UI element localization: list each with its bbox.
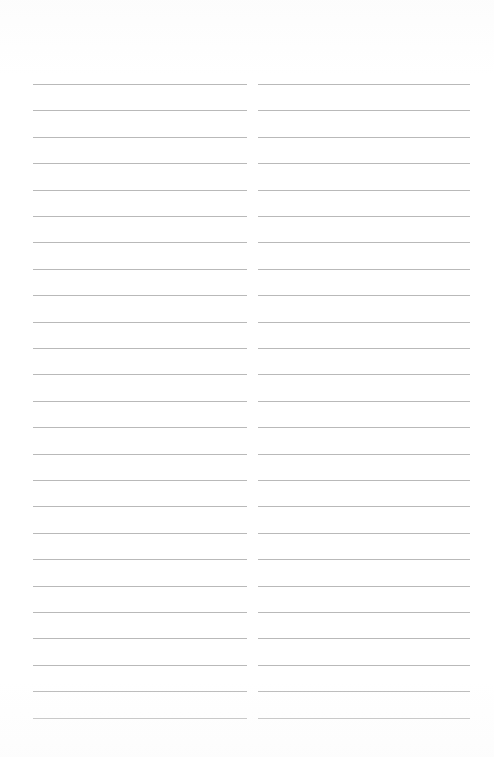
rule-line xyxy=(33,242,247,243)
rule-line xyxy=(33,163,247,164)
rule-line xyxy=(33,427,247,428)
notebook-page xyxy=(0,0,494,757)
rule-line xyxy=(33,533,247,534)
rule-line xyxy=(258,718,470,719)
rule-line xyxy=(33,718,247,719)
rule-line xyxy=(33,559,247,560)
rule-line xyxy=(258,533,470,534)
rule-line xyxy=(258,322,470,323)
rule-line xyxy=(33,190,247,191)
rule-line xyxy=(33,110,247,111)
rule-line xyxy=(258,269,470,270)
rule-line xyxy=(258,427,470,428)
rule-line xyxy=(33,401,247,402)
rule-line xyxy=(258,295,470,296)
rule-line xyxy=(33,454,247,455)
rule-line xyxy=(33,506,247,507)
rule-line xyxy=(258,374,470,375)
rule-line xyxy=(33,665,247,666)
rule-line xyxy=(258,586,470,587)
rule-line xyxy=(258,691,470,692)
rule-line xyxy=(258,216,470,217)
rule-line xyxy=(258,163,470,164)
rule-line xyxy=(258,454,470,455)
rule-line xyxy=(258,506,470,507)
rule-line xyxy=(258,110,470,111)
rule-line xyxy=(258,612,470,613)
rule-line xyxy=(33,374,247,375)
rule-line xyxy=(258,401,470,402)
rule-line xyxy=(258,84,470,85)
rule-line xyxy=(258,137,470,138)
ruled-columns-container xyxy=(0,0,494,757)
rule-line xyxy=(33,322,247,323)
rule-line xyxy=(258,638,470,639)
rule-line xyxy=(33,691,247,692)
right-column[interactable] xyxy=(258,0,470,757)
rule-line xyxy=(33,269,247,270)
rule-line xyxy=(33,137,247,138)
left-column[interactable] xyxy=(33,0,247,757)
rule-line xyxy=(258,190,470,191)
rule-line xyxy=(33,638,247,639)
rule-line xyxy=(33,612,247,613)
rule-line xyxy=(258,665,470,666)
rule-line xyxy=(258,559,470,560)
rule-line xyxy=(33,586,247,587)
rule-line xyxy=(258,348,470,349)
rule-line xyxy=(258,480,470,481)
rule-line xyxy=(33,84,247,85)
rule-line xyxy=(33,348,247,349)
rule-line xyxy=(258,242,470,243)
rule-line xyxy=(33,295,247,296)
rule-line xyxy=(33,480,247,481)
rule-line xyxy=(33,216,247,217)
